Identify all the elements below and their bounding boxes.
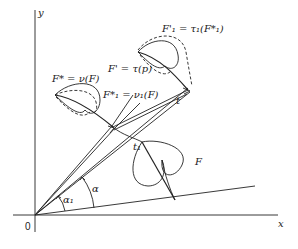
label-F-prime: F' = τ(p) xyxy=(108,64,152,74)
label-F1-star: F*₁ = ν₁(F) xyxy=(103,90,159,100)
label-F-star: F* = ν(F) xyxy=(52,74,100,84)
label-alpha: α xyxy=(92,184,99,194)
F-right-lobe xyxy=(142,141,183,175)
diagram-canvas xyxy=(0,0,298,249)
origin-label: 0 xyxy=(25,222,31,232)
label-t1: t₁ xyxy=(133,142,141,152)
label-F1-prime: F'₁ = τ₁(F*₁) xyxy=(162,24,224,34)
label-alpha1: α₁ xyxy=(63,195,74,205)
label-t: t xyxy=(176,96,180,106)
label-F: F xyxy=(195,157,202,167)
Fstar-outer xyxy=(55,84,100,114)
diagram-figure: y x 0 F F* = ν(F) F*₁ = ν₁(F) F' = τ(p) … xyxy=(0,0,298,249)
ray-t1-double xyxy=(35,128,115,215)
F-spine xyxy=(142,142,175,200)
x-axis-label: x xyxy=(278,219,284,229)
F1prime-dashed xyxy=(138,36,192,86)
y-axis-label: y xyxy=(38,8,44,18)
